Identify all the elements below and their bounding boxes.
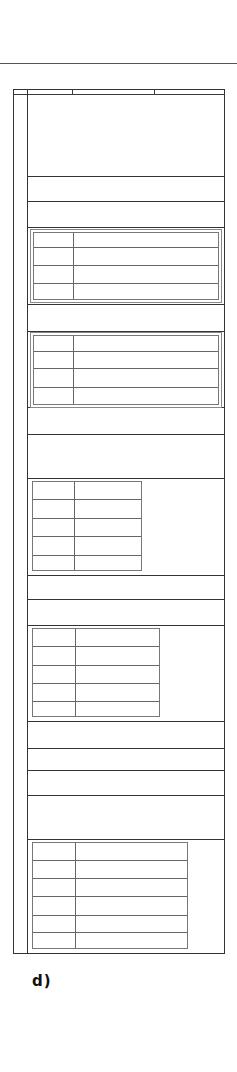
- section-divider: [27, 748, 225, 749]
- section-divider: [27, 331, 225, 332]
- top-rule-line: [0, 63, 237, 64]
- table-4: [32, 628, 160, 717]
- section-divider: [27, 770, 225, 771]
- table-row: [33, 683, 159, 684]
- table-3: [32, 481, 142, 571]
- table-row: [33, 701, 159, 702]
- table-column-divider: [75, 629, 76, 716]
- table-1: [33, 232, 219, 300]
- section-divider: [27, 839, 225, 840]
- table-row: [34, 368, 218, 369]
- section-divider: [27, 599, 225, 600]
- section-divider: [27, 625, 225, 626]
- table-column-divider: [74, 482, 75, 570]
- table-5: [32, 842, 188, 949]
- section-divider: [27, 575, 225, 576]
- table-row: [33, 555, 141, 556]
- section-divider: [27, 227, 225, 228]
- table-row: [33, 646, 159, 647]
- table-row: [33, 896, 187, 897]
- section-divider: [27, 478, 225, 479]
- table-row: [34, 265, 218, 266]
- table-column-divider: [73, 336, 74, 404]
- section-divider: [27, 721, 225, 722]
- section-divider: [27, 304, 225, 305]
- form-left-spine: [27, 89, 28, 954]
- table-row: [33, 860, 187, 861]
- table-column-divider: [73, 233, 74, 299]
- table-row: [33, 665, 159, 666]
- table-row: [34, 351, 218, 352]
- table-row: [33, 915, 187, 916]
- section-divider: [27, 407, 225, 408]
- table-row: [34, 247, 218, 248]
- section-divider: [27, 201, 225, 202]
- section-divider: [27, 176, 225, 177]
- table-row: [33, 536, 141, 537]
- section-divider: [27, 434, 225, 435]
- table-row: [34, 283, 218, 284]
- table-row: [33, 518, 141, 519]
- table-row: [33, 932, 187, 933]
- table-row: [33, 499, 141, 500]
- table-2: [33, 335, 219, 405]
- header-row-bottom: [13, 94, 225, 95]
- figure-caption: d): [32, 972, 52, 990]
- table-row: [34, 387, 218, 388]
- section-divider: [27, 795, 225, 796]
- table-row: [33, 878, 187, 879]
